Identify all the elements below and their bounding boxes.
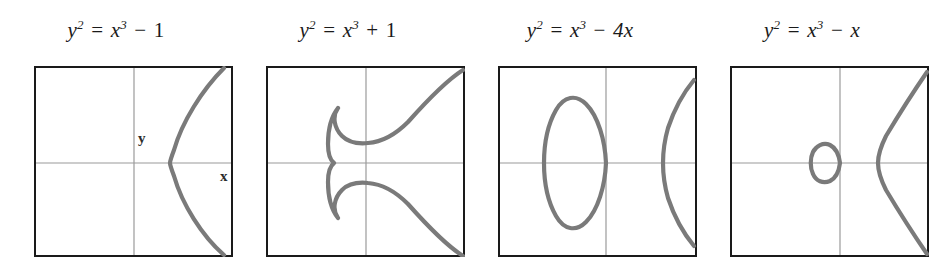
panel-title-1: y2 = x3 − 1 — [0, 18, 232, 43]
title-eq-3: = — [548, 18, 564, 42]
title-lhs-var-3: y — [527, 18, 537, 42]
x-axis-label-1: x — [220, 168, 228, 185]
plot-area-1: y x — [34, 66, 233, 257]
title-op-3: − — [592, 18, 608, 42]
plot-area-4 — [730, 66, 929, 257]
title-rhs-var-3: x — [570, 18, 580, 42]
plot-area-3 — [498, 66, 697, 257]
title-lhs-exp-3: 2 — [536, 17, 543, 32]
title-rhs-exp-3: 3 — [579, 17, 586, 32]
title-term-4: x — [850, 18, 860, 42]
title-lhs-var-1: y — [67, 18, 77, 42]
title-eq-1: = — [89, 18, 105, 42]
title-term-3: 4x — [613, 18, 633, 42]
title-rhs-var-1: x — [111, 18, 121, 42]
title-rhs-exp-2: 3 — [352, 17, 359, 32]
panel-frame-4 — [731, 67, 928, 256]
title-rhs-exp-4: 3 — [817, 17, 824, 32]
title-lhs-var-4: y — [764, 18, 774, 42]
title-term-1: 1 — [154, 18, 165, 42]
title-lhs-var-2: y — [299, 18, 309, 42]
curve-plot-4 — [730, 66, 929, 257]
title-rhs-var-2: x — [343, 18, 353, 42]
title-rhs-var-4: x — [807, 18, 817, 42]
title-term-2: 1 — [386, 18, 397, 42]
plot-area-2 — [266, 66, 465, 257]
title-lhs-exp-2: 2 — [309, 17, 316, 32]
curve-panel-2: y2 = x3 + 1 — [232, 0, 464, 274]
curve-panel-1: y2 = x3 − 1 y x — [0, 0, 232, 274]
title-lhs-exp-1: 2 — [77, 17, 84, 32]
title-op-1: − — [132, 18, 148, 42]
title-lhs-exp-4: 2 — [774, 17, 781, 32]
panel-title-2: y2 = x3 + 1 — [232, 18, 464, 43]
title-rhs-exp-1: 3 — [120, 17, 127, 32]
panel-title-4: y2 = x3 − x — [696, 18, 928, 43]
curve-plot-3 — [498, 66, 697, 257]
y-axis-label-1: y — [138, 130, 146, 147]
curve-panel-4: y2 = x3 − x — [696, 0, 928, 274]
title-eq-4: = — [786, 18, 802, 42]
title-op-2: + — [364, 18, 380, 42]
curve-plot-2 — [266, 66, 465, 257]
curve-panel-3: y2 = x3 − 4x — [464, 0, 696, 274]
title-op-4: − — [829, 18, 845, 42]
panel-frame-3 — [499, 67, 696, 256]
curve-plot-1 — [34, 66, 233, 257]
title-eq-2: = — [321, 18, 337, 42]
panel-title-3: y2 = x3 − 4x — [464, 18, 696, 43]
